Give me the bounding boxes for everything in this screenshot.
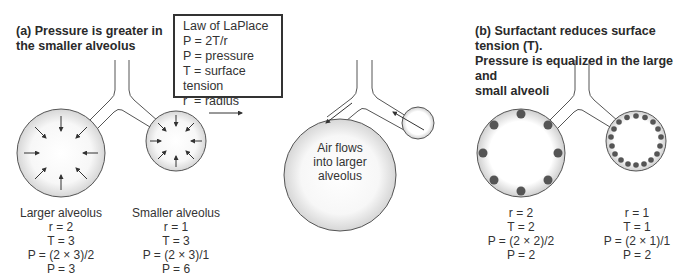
larger-alveolus-b [477, 109, 565, 197]
laplace-law-box: Law of LaPlace P = 2T/r P = pressure T =… [173, 14, 283, 98]
laplace-def-t: T = surface tension [183, 64, 273, 94]
air-flow-caption: Air flows into larger alveolus [290, 141, 390, 183]
smaller-alveolus-b [606, 111, 666, 171]
panel-a-title: (a) Pressure is greater in the smaller a… [16, 24, 163, 54]
laplace-def-r: r = radius [183, 94, 273, 109]
larger-alveolus-a-label: Larger alveolus r = 2 T = 3 P = (2 × 3)/… [6, 206, 116, 276]
panel-b-title: (b) Surfactant reduces surface tension (… [475, 24, 696, 99]
laplace-def-p: P = pressure [183, 49, 273, 64]
laplace-formula: P = 2T/r [183, 34, 273, 49]
smaller-alveolus-b-label: r = 1 T = 1 P = (2 × 1)/1 P = 2 [582, 206, 692, 262]
smaller-alveolus-a-label: Smaller alveolus r = 1 T = 3 P = (2 × 3)… [120, 206, 232, 276]
airway-a [86, 60, 158, 130]
laplace-title: Law of LaPlace [183, 19, 273, 34]
larger-alveolus-b-label: r = 2 T = 2 P = (2 × 2)/2 P = 2 [466, 206, 576, 262]
